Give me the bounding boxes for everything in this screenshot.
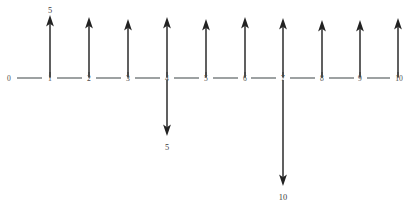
axis-tick-label-1: 1 [48, 74, 52, 83]
vector-up-4 [163, 17, 171, 77]
vector-up-3 [124, 19, 132, 77]
vector-up-1-label: 5 [48, 6, 52, 15]
axis-tick-label-10: 10 [395, 74, 403, 83]
vector-down-4 [163, 80, 171, 136]
vector-down-7 [279, 80, 287, 186]
vector-up-8 [318, 20, 326, 77]
number-line-vector-diagram: 0 1 2 3 4 5 6 7 8 9 10 5 5 10 [0, 0, 413, 207]
axis-tick-label-3: 3 [126, 74, 130, 83]
axis-tick-label-6: 6 [243, 74, 247, 83]
vector-down-7-label: 10 [279, 193, 287, 202]
axis-tick-label-0: 0 [7, 74, 11, 83]
vector-up-10 [394, 18, 402, 77]
axis-tick-label-5: 5 [204, 74, 208, 83]
upward-vectors [46, 15, 402, 77]
vector-up-9 [356, 20, 364, 77]
axis-tick-label-9: 9 [358, 74, 362, 83]
axis-tick-label-4: 4 [165, 74, 169, 83]
axis-tick-label-8: 8 [320, 74, 324, 83]
tick-mark-group [50, 72, 398, 78]
vector-up-7 [279, 18, 287, 77]
downward-vectors [163, 80, 287, 186]
vector-up-2 [85, 17, 93, 77]
axis-tick-label-7: 7 [281, 74, 285, 83]
vector-diagram-canvas: 0 1 2 3 4 5 6 7 8 9 10 5 5 10 [0, 0, 413, 207]
axis-tick-label-2: 2 [87, 74, 91, 83]
vector-up-5 [202, 19, 210, 77]
vector-down-4-label: 5 [165, 143, 169, 152]
vector-up-1 [46, 15, 54, 77]
vector-up-6 [241, 17, 249, 77]
